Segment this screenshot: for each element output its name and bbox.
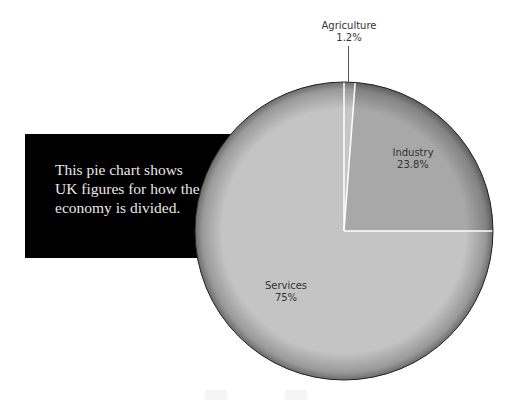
label-agriculture-value: 1.2% bbox=[322, 32, 377, 44]
caption-line-1: This pie chart shows bbox=[55, 160, 215, 179]
caption-text: This pie chart shows UK figures for how … bbox=[55, 160, 215, 217]
label-agriculture-name: Agriculture bbox=[322, 20, 377, 32]
artifact-strip bbox=[285, 390, 307, 400]
label-industry-name: Industry bbox=[392, 147, 433, 159]
label-industry: Industry 23.8% bbox=[392, 147, 433, 171]
label-industry-value: 23.8% bbox=[392, 159, 433, 171]
label-agriculture: Agriculture 1.2% bbox=[322, 20, 377, 44]
label-services-name: Services bbox=[265, 280, 307, 292]
caption-line-2: UK figures for how the bbox=[55, 179, 215, 198]
label-services-value: 75% bbox=[265, 292, 307, 304]
artifact-strip bbox=[205, 390, 227, 400]
label-services: Services 75% bbox=[265, 280, 307, 304]
caption-line-3: economy is divided. bbox=[55, 198, 215, 217]
